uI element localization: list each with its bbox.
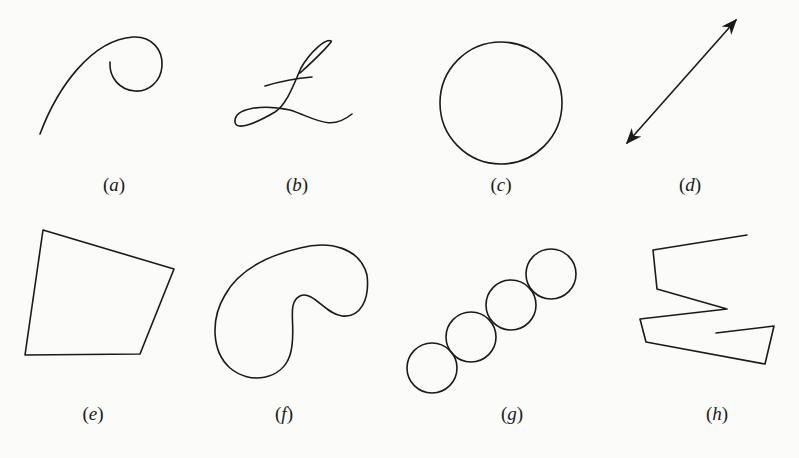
- label-g: (g): [501, 403, 523, 425]
- curve-b-loop: [235, 41, 352, 127]
- curve-g-circle-chain: [407, 249, 576, 393]
- curve-e-quadrilateral: [25, 230, 174, 355]
- label-e: (e): [82, 403, 103, 425]
- curve-a-spiral: [40, 37, 162, 134]
- curve-c-circle: [440, 42, 562, 164]
- label-a: (a): [103, 174, 125, 196]
- curve-f-blob: [215, 245, 368, 378]
- label-d: (d): [679, 174, 701, 196]
- curves-figure: [0, 0, 799, 458]
- label-c: (c): [490, 174, 511, 196]
- label-h: (h): [706, 403, 728, 425]
- label-b: (b): [286, 174, 308, 196]
- curve-d-double-arrow: [627, 20, 736, 143]
- label-f: (f): [275, 403, 293, 425]
- curve-h-zigzag: [640, 235, 774, 364]
